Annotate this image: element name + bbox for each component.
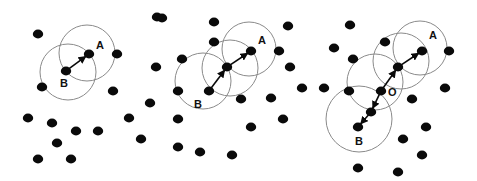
data-point: [417, 47, 427, 56]
data-point: [417, 151, 427, 160]
label-a: A: [429, 29, 437, 41]
data-point: [204, 87, 214, 96]
data-point: [37, 83, 47, 92]
data-point: [246, 47, 256, 56]
data-point: [173, 143, 183, 152]
data-point: [209, 38, 219, 47]
data-point: [47, 119, 57, 128]
label-o: O: [388, 86, 397, 98]
data-point: [61, 67, 71, 76]
data-point: [71, 127, 81, 136]
reachability-arrow: [373, 94, 380, 109]
data-point: [393, 168, 403, 177]
data-point: [366, 108, 376, 117]
data-point: [173, 87, 183, 96]
data-point: [266, 94, 276, 103]
data-point: [246, 123, 256, 132]
data-point: [112, 50, 122, 59]
label-a: A: [96, 39, 104, 51]
data-point: [398, 135, 408, 144]
data-point: [348, 55, 358, 64]
data-point: [353, 123, 363, 132]
data-point: [93, 127, 103, 136]
data-point: [329, 44, 339, 53]
data-point: [345, 21, 355, 30]
data-point: [33, 155, 43, 164]
data-point: [84, 50, 94, 59]
data-point: [376, 87, 386, 96]
data-point: [297, 84, 307, 93]
data-point: [227, 151, 237, 160]
data-point: [274, 47, 284, 56]
data-point: [236, 95, 246, 104]
data-point: [444, 47, 454, 56]
data-point: [209, 18, 219, 27]
data-point: [319, 84, 329, 93]
panel-direct-density-reachable: A B: [23, 13, 162, 164]
data-point: [440, 84, 450, 93]
data-point: [173, 115, 183, 124]
data-point: [124, 114, 134, 123]
label-b: B: [194, 98, 202, 110]
panel-density-reachable: A B: [157, 14, 307, 160]
reachability-arrow: [229, 53, 247, 65]
dbscan-diagram: A B A B A O B: [0, 0, 477, 181]
data-point: [421, 123, 431, 132]
data-point: [136, 135, 146, 144]
data-point: [195, 148, 205, 157]
data-point: [380, 38, 390, 47]
data-point: [285, 63, 295, 72]
data-point: [283, 22, 293, 31]
data-point: [66, 155, 76, 164]
data-point: [407, 95, 417, 104]
reachability-arrow: [361, 114, 369, 124]
data-point: [278, 115, 288, 124]
label-b: B: [355, 135, 363, 147]
reachability-arrow: [211, 70, 225, 88]
data-point: [33, 30, 43, 39]
data-point: [108, 87, 118, 96]
reachability-arrow: [400, 53, 418, 65]
data-point: [222, 63, 232, 72]
label-b: B: [60, 77, 68, 89]
reachability-arrow: [68, 56, 85, 69]
label-a: A: [258, 34, 266, 46]
panel-density-connected: A O B: [319, 21, 454, 177]
data-point: [353, 164, 363, 173]
data-point: [151, 63, 161, 72]
data-point: [177, 55, 187, 64]
data-point: [344, 87, 354, 96]
data-point: [52, 139, 62, 148]
data-point: [393, 63, 403, 72]
data-point: [157, 14, 167, 23]
data-point: [23, 114, 33, 123]
data-point: [145, 99, 155, 108]
